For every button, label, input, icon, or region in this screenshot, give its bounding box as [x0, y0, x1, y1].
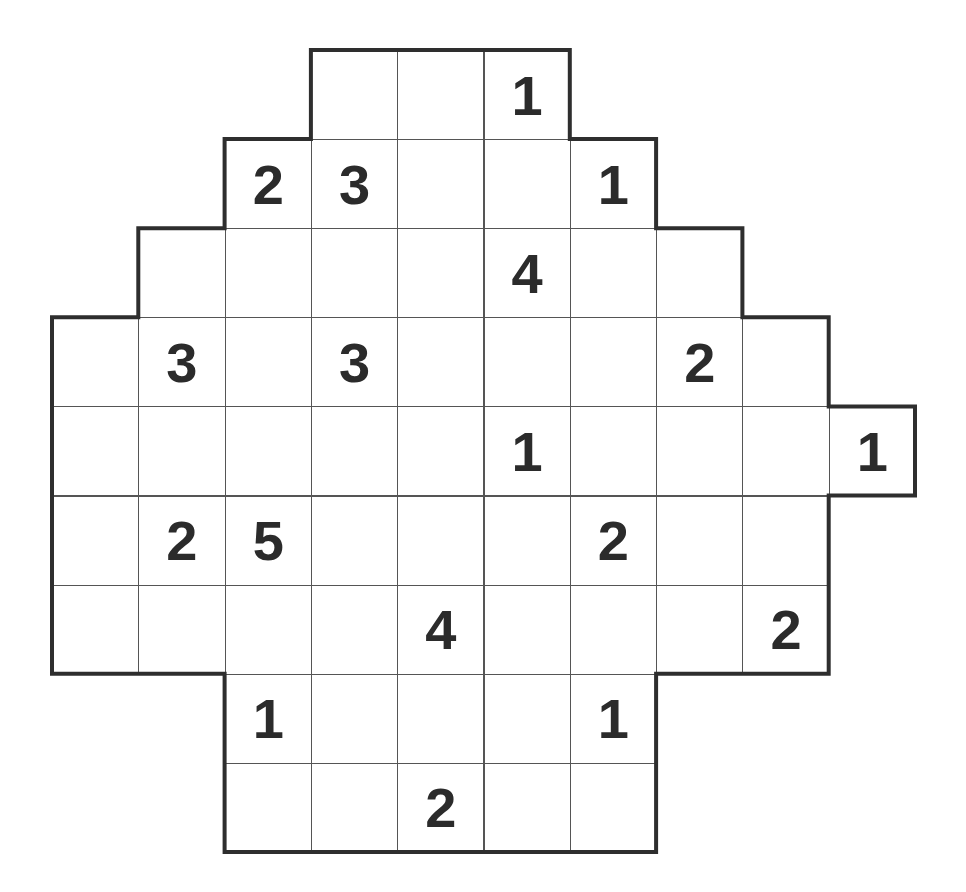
grid-cell[interactable]: 1 — [484, 50, 571, 140]
clue-number: 4 — [512, 241, 543, 306]
grid-cell[interactable]: 1 — [829, 406, 916, 496]
grid-cell[interactable] — [225, 763, 312, 853]
grid-cell[interactable]: 2 — [656, 317, 743, 407]
grid-cell[interactable] — [397, 139, 484, 229]
grid-cell[interactable] — [311, 406, 398, 496]
grid-cell[interactable] — [570, 585, 657, 675]
clue-number: 2 — [253, 152, 284, 217]
grid-cell[interactable] — [484, 674, 571, 764]
grid-cell[interactable] — [397, 50, 484, 140]
grid-cell[interactable]: 4 — [484, 228, 571, 318]
grid-cell[interactable] — [656, 496, 743, 586]
clue-number: 1 — [253, 686, 284, 751]
clue-number: 2 — [166, 508, 197, 573]
grid-cell[interactable] — [225, 317, 312, 407]
grid-cell[interactable] — [225, 228, 312, 318]
clue-number: 1 — [857, 419, 888, 484]
grid-cell[interactable] — [656, 585, 743, 675]
grid-cell[interactable] — [52, 585, 139, 675]
grid-cell[interactable] — [138, 406, 225, 496]
grid-cell[interactable] — [484, 139, 571, 229]
grid-cell[interactable]: 5 — [225, 496, 312, 586]
grid-cell[interactable] — [570, 317, 657, 407]
grid-cell[interactable]: 2 — [742, 585, 829, 675]
grid-cell[interactable]: 1 — [570, 674, 657, 764]
clue-number: 3 — [339, 152, 370, 217]
grid-cell[interactable] — [311, 228, 398, 318]
clue-number: 1 — [512, 63, 543, 128]
clue-number: 5 — [253, 508, 284, 573]
grid-cell[interactable] — [225, 406, 312, 496]
grid-cell[interactable] — [484, 585, 571, 675]
clue-number: 3 — [166, 330, 197, 395]
clue-number: 1 — [598, 686, 629, 751]
grid-cell[interactable] — [138, 228, 225, 318]
grid-cell[interactable] — [52, 496, 139, 586]
grid-cell[interactable] — [311, 674, 398, 764]
grid-cell[interactable] — [397, 228, 484, 318]
clue-number: 4 — [425, 597, 456, 662]
clue-number: 1 — [512, 419, 543, 484]
clue-number: 1 — [598, 152, 629, 217]
grid-cell[interactable] — [225, 585, 312, 675]
grid-cell[interactable] — [570, 228, 657, 318]
grid-cell[interactable] — [397, 317, 484, 407]
grid-cell[interactable] — [484, 763, 571, 853]
grid-cell[interactable] — [656, 228, 743, 318]
grid-cell[interactable] — [52, 317, 139, 407]
grid-cell[interactable] — [397, 406, 484, 496]
grid-cell[interactable]: 1 — [225, 674, 312, 764]
grid-cell[interactable]: 3 — [311, 139, 398, 229]
grid-cell[interactable] — [52, 406, 139, 496]
grid-cell[interactable]: 1 — [484, 406, 571, 496]
grid-cell[interactable] — [742, 317, 829, 407]
grid-cell[interactable]: 3 — [311, 317, 398, 407]
grid-cell[interactable] — [742, 406, 829, 496]
grid-cell[interactable] — [570, 763, 657, 853]
grid-cell[interactable] — [742, 496, 829, 586]
clue-number: 2 — [684, 330, 715, 395]
clue-number: 2 — [598, 508, 629, 573]
grid-cell[interactable] — [570, 406, 657, 496]
grid-cell[interactable] — [397, 674, 484, 764]
grid-cell[interactable] — [311, 50, 398, 140]
grid-cell[interactable] — [656, 406, 743, 496]
grid-cell[interactable] — [484, 496, 571, 586]
grid-cell[interactable]: 1 — [570, 139, 657, 229]
grid-cell[interactable] — [311, 763, 398, 853]
grid-cell[interactable]: 4 — [397, 585, 484, 675]
grid-cell[interactable] — [397, 496, 484, 586]
grid-cell[interactable] — [311, 496, 398, 586]
grid-cell[interactable] — [311, 585, 398, 675]
grid-cell[interactable]: 2 — [225, 139, 312, 229]
clue-number: 2 — [425, 775, 456, 840]
puzzle-board: 123143321125242112 — [0, 0, 966, 892]
grid-cell[interactable] — [138, 585, 225, 675]
clue-number: 2 — [770, 597, 801, 662]
grid-cell[interactable]: 2 — [570, 496, 657, 586]
grid-cell[interactable] — [484, 317, 571, 407]
grid-cell[interactable]: 3 — [138, 317, 225, 407]
clue-number: 3 — [339, 330, 370, 395]
grid-cell[interactable]: 2 — [138, 496, 225, 586]
grid-cell[interactable]: 2 — [397, 763, 484, 853]
